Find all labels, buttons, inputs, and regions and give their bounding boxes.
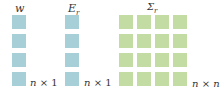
e-dimension: n × 1 [84, 78, 112, 88]
sigma-label-sub: r [154, 7, 157, 15]
sigma-cell [173, 72, 187, 86]
w-cell [12, 15, 26, 29]
sigma-cell [155, 72, 169, 86]
sigma-cell [137, 72, 151, 86]
dim-rows: n [84, 77, 90, 88]
sigma-cell [155, 53, 169, 67]
dim-rows: n [192, 78, 198, 89]
w-label: w [15, 3, 24, 14]
dim-times: × [202, 78, 210, 89]
e-cell [65, 15, 79, 29]
sigma-cell [137, 53, 151, 67]
w-dimension: n × 1 [30, 78, 58, 88]
dim-cols: 1 [51, 77, 57, 88]
dim-rows: n [30, 77, 36, 88]
sigma-cell [119, 72, 133, 86]
sigma-cell [155, 15, 169, 29]
sigma-cell [173, 34, 187, 48]
sigma-cell [119, 34, 133, 48]
w-cell [12, 34, 26, 48]
dim-times: × [40, 77, 48, 88]
sigma-cell [173, 15, 187, 29]
e-cell [65, 53, 79, 67]
e-label-main: E [68, 2, 76, 15]
sigma-cell [119, 15, 133, 29]
sigma-cell [155, 34, 169, 48]
e-cell [65, 72, 79, 86]
dim-cols: n [213, 78, 219, 89]
e-cell [65, 34, 79, 48]
sigma-cell [119, 53, 133, 67]
w-cell [12, 53, 26, 67]
dim-cols: 1 [105, 77, 111, 88]
sigma-dimension: n × n [192, 79, 220, 89]
sigma-cell [173, 53, 187, 67]
dim-times: × [94, 77, 102, 88]
sigma-label: Σr [147, 2, 157, 15]
sigma-cell [137, 34, 151, 48]
sigma-cell [137, 15, 151, 29]
w-cell [12, 72, 26, 86]
